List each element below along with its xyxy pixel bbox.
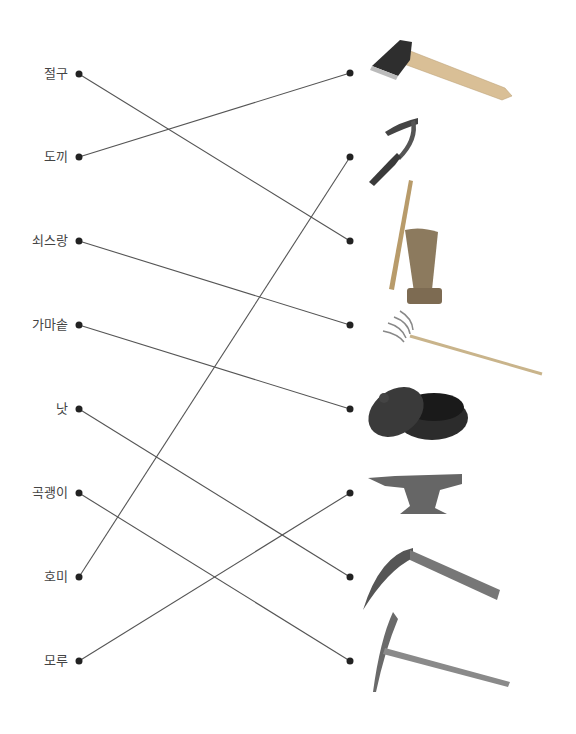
anvil-image — [368, 474, 462, 514]
left-dot — [76, 71, 83, 78]
axe-image — [370, 40, 512, 100]
left-dot — [76, 490, 83, 497]
line-axe — [79, 73, 350, 157]
pickaxe-image — [373, 612, 510, 692]
right-dot — [347, 154, 354, 161]
left-dot — [76, 574, 83, 581]
pitchfork-image — [383, 311, 542, 374]
left-dot — [76, 406, 83, 413]
left-dot — [76, 322, 83, 329]
right-dot — [347, 658, 354, 665]
right-dot — [347, 406, 354, 413]
line-mortar — [79, 74, 350, 241]
connection-lines — [0, 0, 576, 734]
pot-image — [359, 377, 468, 447]
line-hoe — [79, 157, 350, 577]
left-dot — [76, 238, 83, 245]
line-pitchfork — [79, 241, 350, 325]
right-dot — [347, 322, 354, 329]
right-dot — [347, 490, 354, 497]
left-dot — [76, 658, 83, 665]
right-dot — [347, 574, 354, 581]
right-dot — [347, 70, 354, 77]
right-dot — [347, 238, 354, 245]
sickle-image — [363, 548, 500, 610]
line-sickle — [79, 409, 350, 577]
left-dot — [76, 154, 83, 161]
hoe-image — [369, 118, 418, 186]
mortar-image — [389, 180, 442, 304]
